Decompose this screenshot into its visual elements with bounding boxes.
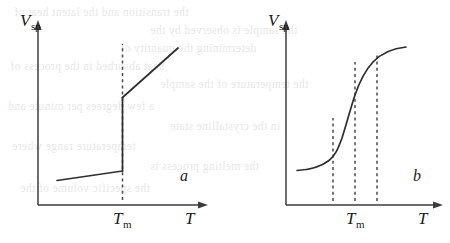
y-axis-label-symbol: V <box>268 11 278 30</box>
x-axis-label-b: T <box>418 210 427 227</box>
panel-b-plot <box>225 0 450 243</box>
y-axis-label-a: Vsp <box>20 12 41 29</box>
x-axis-label-a: T <box>185 210 194 227</box>
panel-label-a: a <box>180 168 188 184</box>
specific-volume-curve <box>297 47 406 171</box>
y-axis-label-symbol: V <box>20 11 30 30</box>
y-axis-label-b: Vsp <box>268 12 289 29</box>
y-axis-label-subscript: sp <box>279 20 289 32</box>
x-axis-arrowhead <box>198 201 208 208</box>
panel-label-b: b <box>413 168 421 184</box>
x-tick-label-symbol: T <box>113 209 122 228</box>
panel-a: Vsp Tm T a <box>0 0 225 243</box>
x-tick-label-b: Tm <box>346 210 364 227</box>
panel-a-plot <box>0 0 225 243</box>
y-axis-label-subscript: sp <box>31 20 41 32</box>
liquid-branch-curve <box>123 48 179 98</box>
x-tick-label-a: Tm <box>113 210 131 227</box>
figure-root: the transition and the latent heat of th… <box>0 0 450 243</box>
x-tick-label-symbol: T <box>346 209 355 228</box>
solid-branch-curve <box>57 171 123 181</box>
panel-b: Vsp Tm T b <box>225 0 450 243</box>
x-tick-label-subscript: m <box>356 218 365 230</box>
x-tick-label-subscript: m <box>123 218 132 230</box>
x-axis-arrowhead <box>433 201 443 208</box>
